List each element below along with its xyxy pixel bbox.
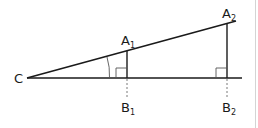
angle-arc-c bbox=[107, 57, 110, 78]
label-b1: B1 bbox=[121, 100, 135, 117]
right-border-divider bbox=[255, 0, 256, 128]
label-a1: A1 bbox=[121, 33, 135, 50]
label-b2-subscript: 2 bbox=[231, 108, 236, 117]
diagram-canvas: C A1 A2 B1 B2 bbox=[0, 0, 258, 128]
right-angle-marker-b2 bbox=[216, 68, 227, 78]
label-c: C bbox=[14, 71, 23, 86]
right-angle-marker-b1 bbox=[116, 68, 127, 78]
label-b1-subscript: 1 bbox=[130, 108, 135, 117]
label-a2: A2 bbox=[222, 6, 236, 23]
label-b2: B2 bbox=[222, 100, 236, 117]
label-a1-subscript: 1 bbox=[130, 41, 135, 50]
label-a2-subscript: 2 bbox=[231, 14, 236, 23]
